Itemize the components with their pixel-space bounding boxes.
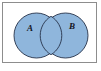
venn-diagram-canvas: A B (0, 0, 101, 71)
set-label-a: A (26, 23, 33, 33)
venn-diagram-figure: A B (0, 0, 101, 71)
set-label-b: B (68, 21, 75, 31)
